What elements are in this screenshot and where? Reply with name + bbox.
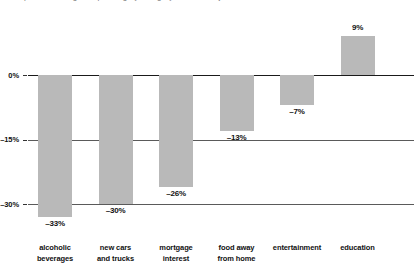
bar-value-label: –30% <box>81 206 151 215</box>
bar-value-label: 9% <box>323 23 393 32</box>
bar[interactable] <box>341 36 375 75</box>
bar-value-label: –26% <box>141 189 211 198</box>
tick-mark <box>23 75 27 76</box>
bar-value-label: –13% <box>202 133 272 142</box>
y-axis-tick-label: –15% <box>0 135 19 144</box>
bar-chart: 0%–15%–30%–33%alcoholicbeverages–30%new … <box>0 0 418 280</box>
y-axis-tick-label: 0% <box>0 71 19 80</box>
bar[interactable] <box>38 75 72 217</box>
bar[interactable] <box>159 75 193 187</box>
bar[interactable] <box>99 75 133 204</box>
category-label-line: from home <box>197 254 277 265</box>
x-axis-category-label: education <box>318 243 398 254</box>
category-label-line: education <box>318 243 398 254</box>
tick-mark <box>23 204 27 205</box>
bar-value-label: –33% <box>20 219 90 228</box>
bar-value-label: –7% <box>262 107 332 116</box>
bar[interactable] <box>220 75 254 131</box>
gridline--30 <box>28 204 414 205</box>
y-axis-tick-label: –30% <box>0 200 19 209</box>
tick-mark <box>23 140 27 141</box>
bar[interactable] <box>280 75 314 105</box>
